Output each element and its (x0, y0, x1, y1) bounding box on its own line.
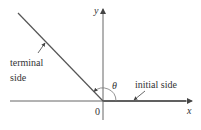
initial-side-label: initial side (135, 79, 178, 90)
y-axis-label: y (93, 5, 99, 16)
angle-diagram: y x 0 θ terminal side initial side (0, 0, 201, 130)
terminal-pointer-arrow (38, 43, 45, 53)
initial-pointer-arrow (134, 91, 145, 100)
x-axis-label: x (186, 105, 192, 116)
origin-label: 0 (95, 106, 100, 117)
terminal-side-label-line1: terminal (10, 57, 44, 68)
theta-label: θ (112, 80, 117, 91)
terminal-side-label-line2: side (10, 72, 27, 83)
